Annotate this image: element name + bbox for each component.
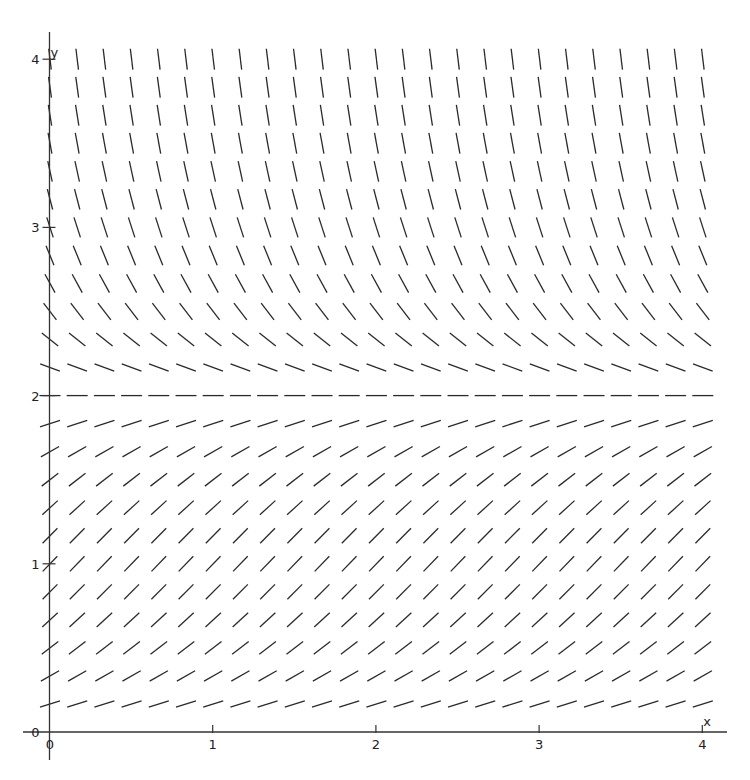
slope-segment [641,556,656,571]
slope-segment [476,671,494,681]
slope-segment [157,161,161,182]
slope-segment [205,333,221,346]
slope-segment [128,246,136,265]
slope-segment [504,641,521,654]
slope-segment [401,161,405,182]
slope-segment [666,364,686,371]
slope-segment [230,420,250,426]
slope-segment [424,303,437,320]
slope-segment [423,501,438,515]
slope-segment [264,217,270,237]
slope-segment [232,641,249,654]
slope-segment [503,364,523,371]
slope-segment [560,303,573,320]
x-tick-label: 1 [209,737,217,752]
slope-segment [616,274,626,292]
slope-segment [321,49,324,70]
slope-segment [502,420,522,426]
slope-segment [68,671,86,681]
slope-segment [203,364,223,371]
slope-segment [537,189,542,209]
slope-segment [696,556,711,571]
slope-segment [177,446,195,456]
slope-segment [647,105,650,126]
slope-segment [341,473,358,486]
slope-segment [320,105,323,126]
slope-segment [287,556,302,571]
slope-segment [316,303,329,320]
slope-segment [586,641,603,654]
slope-segment [613,641,630,654]
slope-segment [339,701,359,707]
slope-segment [505,528,520,543]
slope-segment [124,613,139,627]
slope-segment [99,274,109,292]
slope-segment [612,446,630,456]
slope-segment [450,501,465,515]
slope-segment [558,671,576,681]
slope-segment [233,528,248,543]
slope-segment [619,189,624,209]
slope-segment [347,133,351,154]
slope-segment [674,133,678,154]
slope-segment [475,701,495,707]
slope-segment [103,49,106,70]
slope-segment [177,671,195,681]
slope-segment [206,528,221,543]
slope-segment [150,671,168,681]
slope-segment [72,274,82,292]
slope-segment [423,584,438,599]
slope-segment [505,613,520,627]
slope-segment [673,161,677,182]
slope-segment [421,364,441,371]
slope-segment [258,446,276,456]
slope-segment [76,77,79,98]
slope-segment [591,217,597,237]
slope-segment [347,161,351,182]
slope-segment [294,49,297,70]
slope-segment [559,641,576,654]
slope-segment [695,613,710,627]
slope-segment [339,420,359,426]
slope-segment [207,303,220,320]
slope-segment [292,189,297,209]
slope-segment [530,701,550,707]
slope-segment [341,641,358,654]
slope-segment [456,133,460,154]
slope-segment [538,133,542,154]
slope-segment [69,613,84,627]
slope-segment [263,274,273,292]
slope-segment [287,333,303,346]
slope-segment [531,473,548,486]
slope-segment [396,584,411,599]
slope-segment [318,246,326,265]
slope-segment [508,246,516,265]
slope-segment [397,303,410,320]
slope-segment [667,641,684,654]
slope-segment [693,364,713,371]
slope-segment [339,364,359,371]
slope-segment [536,217,542,237]
slope-segment [482,217,488,237]
slope-segment [367,446,385,456]
slope-segment [641,584,656,599]
slope-segment [620,105,623,126]
slope-segment [287,473,304,486]
slope-segment [639,446,657,456]
slope-segment [477,501,492,515]
slope-segment [129,189,134,209]
slope-segment [96,473,113,486]
slope-segment [638,420,658,426]
slope-segment [238,189,243,209]
slope-segment [429,105,432,126]
slope-segment [124,528,139,543]
slope-segment [314,641,331,654]
slope-segment [260,613,275,627]
slope-field-chart: 01234 01234 x y [0,0,750,780]
slope-segment [260,501,275,515]
slope-segment [179,528,194,543]
slope-segment [315,528,330,543]
slope-segment [584,420,604,426]
x-tick-label: 0 [46,737,54,752]
slope-segment [122,671,140,681]
